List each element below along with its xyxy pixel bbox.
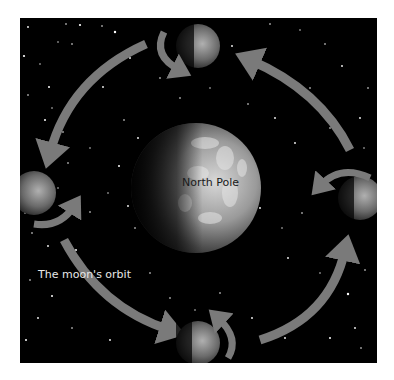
orbit-diagram: [20, 18, 377, 363]
space-background: North Pole The moon's orbit: [20, 18, 377, 363]
moon-top: [160, 24, 220, 70]
orbit-arrow-bottom-to-right: [260, 250, 345, 340]
north-pole-label: North Pole: [182, 176, 239, 189]
orbit-arrow-top-to-left: [50, 44, 146, 153]
orbit-label: The moon's orbit: [38, 268, 131, 281]
moon-left: [20, 171, 74, 225]
orbit-arrow-left-to-bottom: [64, 240, 170, 330]
moon-right: [320, 173, 377, 220]
moon-bottom: [176, 318, 232, 363]
orbit-arrow-right-to-top: [250, 60, 350, 150]
